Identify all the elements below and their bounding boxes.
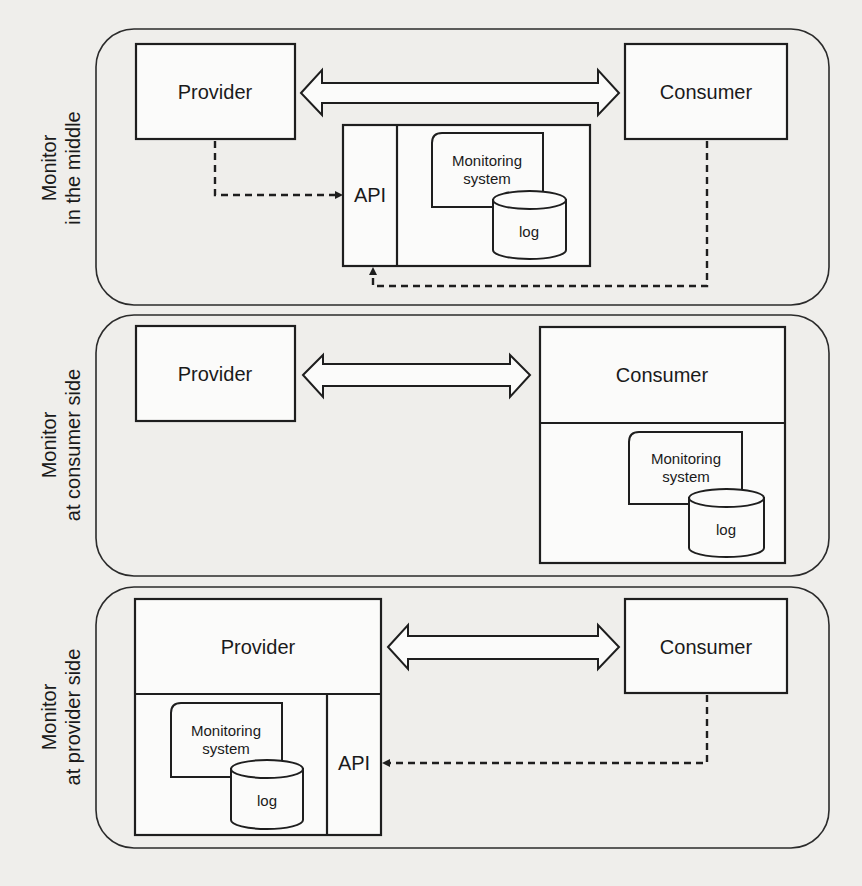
consumer-box: Consumer — [625, 599, 787, 693]
log-label: log — [257, 792, 277, 809]
side-label: Monitor at consumer side — [38, 369, 84, 521]
arrowhead-icon — [382, 759, 390, 767]
dashed-arrow-consumer-to-api — [382, 695, 707, 767]
diagram-canvas: Monitor in the middle Provider Consumer … — [0, 0, 862, 886]
side-label: Monitor in the middle — [38, 111, 84, 224]
double-arrow-icon — [388, 625, 619, 669]
monitoring-label-line-1: Monitoring — [191, 722, 261, 739]
monitor-container: API Monitoring system log — [343, 125, 590, 266]
side-label-line-2: at consumer side — [62, 369, 84, 521]
provider-label: Provider — [178, 81, 253, 103]
monitoring-label-line-2: system — [662, 468, 710, 485]
panel-monitor-at-provider-side: Monitor at provider side Provider API Mo… — [38, 587, 829, 848]
provider-box: Provider — [136, 44, 295, 139]
provider-box-with-monitor: Provider API Monitoring system log — [135, 599, 381, 835]
side-label-line-1: Monitor — [38, 683, 60, 750]
panel-monitor-in-the-middle: Monitor in the middle Provider Consumer … — [38, 29, 829, 305]
side-label-line-2: at provider side — [62, 649, 84, 786]
arrowhead-icon — [335, 191, 343, 199]
consumer-label: Consumer — [616, 364, 709, 386]
api-label: API — [338, 752, 370, 774]
provider-label: Provider — [221, 636, 296, 658]
log-database-icon: log — [231, 760, 303, 829]
side-label-line-1: Monitor — [38, 411, 60, 478]
side-label: Monitor at provider side — [38, 649, 84, 786]
log-database-icon: log — [493, 191, 566, 259]
consumer-label: Consumer — [660, 81, 753, 103]
double-arrow-icon — [303, 355, 530, 397]
monitoring-label-line-1: Monitoring — [651, 450, 721, 467]
consumer-box-with-monitor: Consumer Monitoring system log — [540, 327, 785, 563]
log-database-icon: log — [689, 489, 764, 557]
monitoring-label-line-2: system — [202, 740, 250, 757]
panel-monitor-at-consumer-side: Monitor at consumer side Provider Consum… — [38, 315, 829, 576]
provider-label: Provider — [178, 363, 253, 385]
consumer-box: Consumer — [625, 44, 787, 139]
double-arrow-icon — [301, 70, 619, 115]
side-label-line-2: in the middle — [62, 111, 84, 224]
dashed-arrow-provider-to-api — [215, 141, 343, 199]
monitoring-label-line-2: system — [463, 170, 511, 187]
api-label: API — [354, 184, 386, 206]
provider-box: Provider — [136, 326, 295, 421]
arrowhead-icon — [369, 267, 377, 275]
log-label: log — [519, 223, 539, 240]
monitoring-label-line-1: Monitoring — [452, 152, 522, 169]
consumer-label: Consumer — [660, 636, 753, 658]
log-label: log — [716, 521, 736, 538]
side-label-line-1: Monitor — [38, 134, 60, 201]
